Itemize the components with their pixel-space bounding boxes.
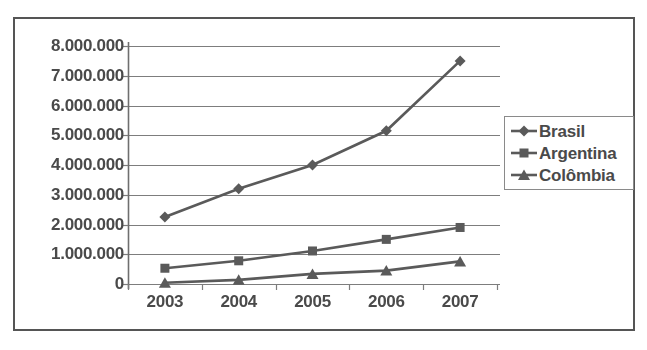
x-axis-tick-label: 2004 — [209, 293, 269, 310]
triangle-marker-icon — [509, 165, 539, 185]
diamond-marker-icon — [509, 121, 539, 141]
legend-label-colombia: Colômbia — [539, 167, 615, 184]
chart-legend: Brasil Argentina Colômbia — [504, 116, 634, 190]
x-axis-tick-label: 2006 — [356, 293, 416, 310]
x-axis-tick-label: 2005 — [283, 293, 343, 310]
legend-item-argentina[interactable]: Argentina — [509, 142, 629, 164]
legend-label-argentina: Argentina — [539, 145, 617, 162]
legend-label-brasil: Brasil — [539, 123, 585, 140]
chart-figure: 8.000.0007.000.0006.000.0005.000.0004.00… — [0, 0, 647, 350]
x-axis-tick-label: 2003 — [135, 293, 195, 310]
legend-item-colombia[interactable]: Colômbia — [509, 164, 629, 186]
square-marker-icon — [509, 143, 539, 163]
legend-item-brasil[interactable]: Brasil — [509, 120, 629, 142]
x-axis-tick-label: 2007 — [430, 293, 490, 310]
